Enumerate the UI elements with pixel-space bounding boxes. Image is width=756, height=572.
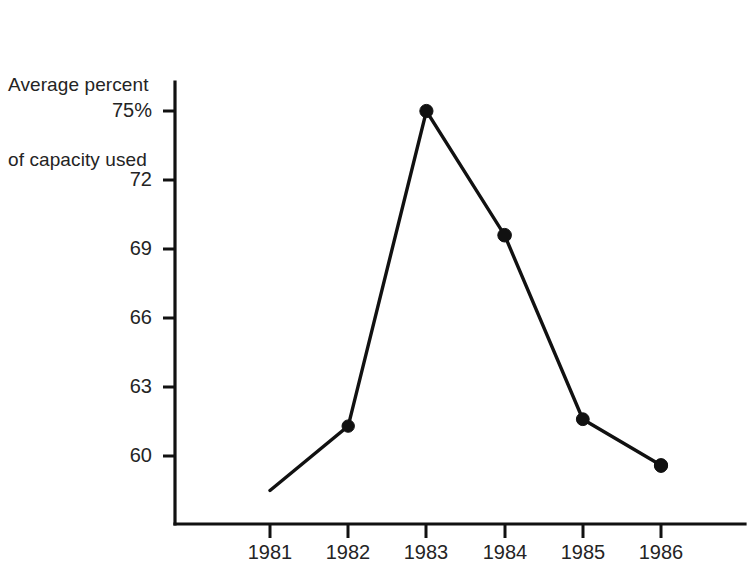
- y-axis-label-69: 69: [58, 238, 152, 258]
- data-point-1983: [498, 228, 512, 242]
- data-point-1982: [420, 104, 433, 117]
- x-axis-ticks: [270, 524, 661, 538]
- data-point-1981: [342, 420, 354, 432]
- plot-area: [0, 0, 756, 572]
- chart-figure: Average percent of capacity used: [0, 0, 756, 572]
- data-point-markers: [342, 104, 668, 472]
- x-axis-label-1986: 1986: [611, 542, 711, 562]
- y-axis-label-72: 72: [58, 169, 152, 189]
- data-point-1984: [576, 413, 589, 426]
- y-axis-label-63: 63: [58, 376, 152, 396]
- y-axis-label-66: 66: [58, 307, 152, 327]
- y-axis-label-60: 60: [58, 445, 152, 465]
- data-series-line: [270, 111, 661, 491]
- y-axis-label-75: 75%: [58, 100, 152, 120]
- data-point-1986: [655, 460, 668, 473]
- y-axis-ticks: [163, 111, 175, 456]
